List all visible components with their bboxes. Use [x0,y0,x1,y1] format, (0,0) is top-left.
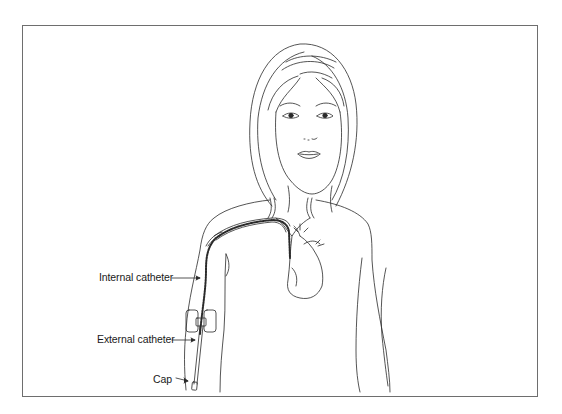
label-internal-catheter: Internal catheter [99,271,173,283]
label-cap: Cap [153,373,172,385]
vessels [206,218,290,246]
internal-catheter [200,220,290,334]
face [276,103,342,194]
label-external-catheter: External catheter [97,333,175,345]
patient-illustration [0,0,562,414]
external-catheter [192,326,203,390]
